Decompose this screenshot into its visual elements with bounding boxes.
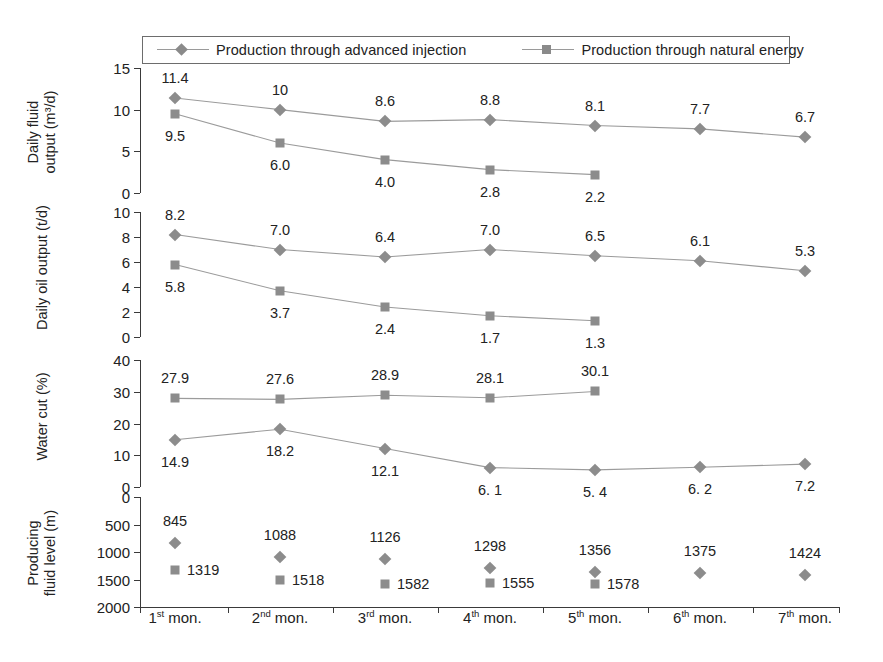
data-label-p1-s1-0: 9.5 — [165, 128, 185, 144]
y-tick-p4-1 — [134, 525, 140, 526]
data-label-p3-s0-1: 18.2 — [266, 443, 294, 459]
y-tick-label-p2-3: 6 — [122, 254, 130, 271]
data-label-p4-s0-5: 1375 — [684, 543, 716, 559]
data-label-p2-s0-6: 5.3 — [795, 243, 815, 259]
chart-panel-p1: 05101511.4108.68.88.17.76.79.56.04.02.82… — [0, 68, 883, 193]
x-category-suffix-1: st — [157, 608, 164, 619]
x-category-label-4: 4th mon. — [463, 608, 517, 626]
data-label-p3-s0-2: 12.1 — [371, 463, 399, 479]
square-marker-icon — [591, 387, 600, 396]
data-label-p2-s1-4: 1.3 — [585, 335, 605, 351]
data-label-p2-s0-2: 6.4 — [375, 229, 395, 245]
y-tick-p1-0 — [134, 193, 140, 194]
y-tick-label-p3-3: 30 — [113, 383, 130, 400]
chart-legend: Production through advanced injection Pr… — [142, 36, 790, 64]
y-tick-p4-3 — [134, 580, 140, 581]
y-tick-label-p3-4: 40 — [113, 352, 130, 369]
square-marker-icon — [591, 170, 600, 179]
data-label-p4-s0-4: 1356 — [579, 542, 611, 558]
data-label-p1-s0-0: 11.4 — [161, 70, 188, 86]
data-label-p2-s0-0: 8.2 — [165, 207, 185, 223]
x-axis-category-labels: 1st mon.2nd mon.3rd mon.4th mon.5th mon.… — [140, 608, 840, 638]
square-marker-icon — [381, 155, 390, 164]
data-label-p4-s1-2: 1582 — [397, 576, 429, 592]
x-category-label-5: 5th mon. — [568, 608, 622, 626]
data-label-p4-s1-0: 1319 — [187, 562, 219, 578]
data-label-p1-s0-2: 8.6 — [375, 93, 395, 109]
data-label-p4-s1-4: 1578 — [607, 576, 639, 592]
data-label-p2-s1-1: 3.7 — [270, 305, 290, 321]
x-category-text-6: mon. — [689, 609, 727, 626]
square-marker-icon — [276, 286, 285, 295]
chart-panel-p2: 02468108.27.06.47.06.56.15.35.83.72.41.7… — [0, 212, 883, 337]
square-marker-icon — [591, 579, 600, 588]
square-marker-icon — [171, 394, 180, 403]
y-tick-label-p2-1: 2 — [122, 304, 130, 321]
y-axis-line-p4 — [140, 497, 141, 607]
data-label-p4-s0-0: 845 — [163, 513, 187, 529]
data-label-p2-s0-5: 6.1 — [690, 233, 710, 249]
diamond-marker-icon — [274, 550, 287, 563]
data-label-p4-s0-1: 1088 — [264, 527, 296, 543]
x-category-text-5: mon. — [584, 609, 622, 626]
y-tick-p3-0 — [134, 487, 140, 488]
y-tick-label-p3-2: 20 — [113, 415, 130, 432]
data-label-p1-s1-3: 2.8 — [480, 184, 500, 200]
y-axis-title-line1-p4: Producing — [25, 468, 42, 638]
y-tick-p2-0 — [134, 337, 140, 338]
data-label-p3-s1-0: 27.9 — [161, 370, 189, 386]
x-category-text-1: mon. — [164, 609, 202, 626]
y-tick-label-p2-4: 8 — [122, 229, 130, 246]
square-marker-icon — [381, 391, 390, 400]
square-marker-icon — [171, 109, 180, 118]
square-marker-icon — [171, 260, 180, 269]
diamond-marker-icon — [157, 43, 209, 57]
square-marker-icon — [171, 565, 180, 574]
y-axis-title-p4: Producingfluid level (m) — [25, 468, 59, 638]
plot-area-p3: 01020304014.918.212.16. 15. 46. 27.227.9… — [140, 360, 840, 487]
y-tick-label-p4-2: 1000 — [97, 544, 130, 561]
series-line-p2-1 — [175, 265, 595, 321]
data-label-p4-s1-3: 1555 — [502, 575, 534, 591]
y-tick-label-p2-5: 10 — [113, 204, 130, 221]
data-label-p3-s1-2: 28.9 — [371, 367, 399, 383]
data-label-p3-s0-3: 6. 1 — [478, 482, 502, 498]
x-category-label-3: 3rd mon. — [358, 608, 412, 626]
data-label-p4-s0-2: 1126 — [369, 529, 400, 545]
data-label-p4-s0-6: 1424 — [789, 545, 821, 561]
legend-label-natural-energy: Production through natural energy — [581, 42, 804, 58]
x-category-label-7: 7th mon. — [778, 608, 832, 626]
data-label-p1-s1-4: 2.2 — [585, 189, 605, 205]
x-category-label-6: 6th mon. — [673, 608, 727, 626]
square-marker-icon — [276, 395, 285, 404]
square-marker-icon — [486, 393, 495, 402]
x-category-label-2: 2nd mon. — [252, 608, 308, 626]
y-tick-label-p2-0: 0 — [122, 329, 130, 346]
x-category-text-3: mon. — [375, 609, 413, 626]
chart-panel-p4: 0500100015002000845108811261298135613751… — [0, 497, 883, 607]
data-label-p3-s0-5: 6. 2 — [688, 481, 712, 497]
y-tick-label-p4-4: 2000 — [97, 599, 130, 616]
y-tick-label-p4-3: 1500 — [97, 571, 130, 588]
x-category-suffix-2: nd — [260, 608, 271, 619]
data-label-p1-s1-1: 6.0 — [270, 157, 290, 173]
data-label-p2-s1-0: 5.8 — [165, 279, 185, 295]
data-label-p1-s0-4: 8.1 — [585, 98, 605, 114]
data-label-p2-s1-2: 2.4 — [375, 321, 395, 337]
square-marker-icon — [381, 580, 390, 589]
data-label-p1-s1-2: 4.0 — [375, 174, 395, 190]
data-label-p2-s0-3: 7.0 — [480, 222, 500, 238]
plot-area-p4: 0500100015002000845108811261298135613751… — [140, 497, 840, 607]
data-label-p3-s0-6: 7.2 — [795, 478, 815, 494]
x-category-text-7: mon. — [794, 609, 832, 626]
y-tick-label-p1-3: 15 — [113, 60, 130, 77]
data-label-p3-s1-3: 28.1 — [476, 370, 504, 386]
diamond-marker-icon — [694, 566, 707, 579]
data-label-p2-s0-4: 6.5 — [585, 228, 605, 244]
data-label-p1-s0-3: 8.8 — [480, 92, 500, 108]
legend-label-advanced-injection: Production through advanced injection — [216, 42, 466, 58]
y-tick-label-p4-0: 0 — [122, 489, 130, 506]
square-marker-icon — [486, 165, 495, 174]
diamond-marker-icon — [484, 562, 497, 575]
y-tick-p4-2 — [134, 552, 140, 553]
